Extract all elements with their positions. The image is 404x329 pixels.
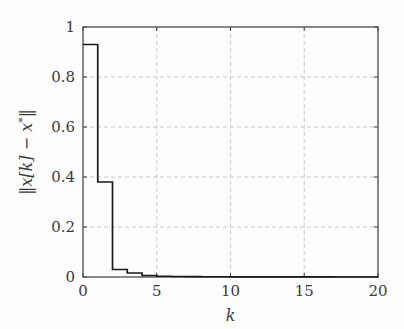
figure-container: 00.20.40.60.81 05101520 k ‖x[k] − x*‖ — [0, 0, 404, 329]
ylabel-var-x: x — [17, 178, 36, 187]
y-tick-label: 0.4 — [51, 170, 75, 185]
ylabel-norm-close: ‖ — [17, 109, 36, 117]
x-tick-label: 20 — [368, 284, 387, 299]
ylabel-index-k: [k] — [17, 155, 36, 177]
x-tick-label: 15 — [295, 284, 314, 299]
x-tick-label: 5 — [152, 284, 162, 299]
ylabel-star: * — [16, 117, 29, 123]
y-tick-label: 0.8 — [51, 70, 75, 85]
y-tick-label: 1 — [65, 20, 75, 35]
ylabel-var-xstar: x — [17, 123, 36, 132]
y-tick-label: 0 — [65, 270, 75, 285]
convergence-plot — [0, 0, 404, 329]
y-tick-label: 0.6 — [51, 120, 75, 135]
y-axis-label: ‖x[k] − x*‖ — [16, 109, 36, 194]
x-axis-label: k — [226, 306, 236, 325]
x-tick-label: 0 — [78, 284, 88, 299]
gridlines — [83, 27, 378, 277]
ylabel-minus: − — [17, 132, 36, 156]
x-tick-label: 10 — [221, 284, 240, 299]
y-tick-label: 0.2 — [51, 220, 75, 235]
ylabel-norm-open: ‖ — [17, 187, 36, 195]
